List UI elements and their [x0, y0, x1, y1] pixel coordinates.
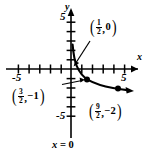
asymptote-variable: x: [52, 139, 57, 150]
math-graph-figure: y x 5 -5 -5 5 ( 1 2 , 0 ) ( 3 2 , −1 ) (…: [0, 0, 148, 155]
fraction-three-halves: 3 2: [18, 88, 24, 105]
x-tick-label-neg5: -5: [12, 72, 21, 83]
point-label-left: ( 3 2 , −1 ): [11, 88, 45, 105]
coord-y-value: −1: [28, 91, 39, 102]
leader-line-intercept: [76, 41, 91, 64]
curve-arrowhead: [126, 87, 134, 94]
fraction-numerator: 1: [97, 19, 101, 27]
x-tick-label-5: 5: [121, 72, 127, 83]
fraction-denominator: 2: [96, 112, 100, 120]
data-point-marker: [84, 76, 90, 82]
asymptote-equation: x = 0: [52, 139, 74, 150]
fraction-denominator: 2: [97, 28, 101, 36]
leader-line-left-point: [62, 81, 82, 85]
close-paren: ): [117, 103, 122, 119]
fraction-one-half: 1 2: [96, 19, 102, 36]
y-tick-label-5: 5: [60, 11, 66, 22]
fraction-numerator: 9: [96, 103, 100, 111]
x-axis-arrowhead: [131, 66, 138, 73]
fraction-denominator: 2: [19, 97, 23, 105]
open-paren: (: [89, 103, 94, 119]
x-axis-label: x: [137, 52, 142, 62]
fraction-numerator: 3: [19, 88, 23, 96]
point-label-right: ( 9 2 , −2 ): [88, 103, 122, 120]
close-paren: ): [40, 88, 45, 104]
asymptote-equals: = 0: [60, 139, 74, 150]
open-paren: (: [12, 88, 17, 104]
open-paren: (: [90, 19, 95, 35]
x-intercept-label: ( 1 2 , 0 ): [89, 19, 117, 36]
close-paren: ): [112, 19, 117, 35]
y-tick-label-neg5: -5: [56, 110, 65, 121]
coord-y-value: −2: [105, 106, 116, 117]
fraction-nine-halves: 9 2: [95, 103, 101, 120]
data-point-marker: [115, 86, 121, 92]
coord-y-value: 0: [106, 22, 111, 33]
